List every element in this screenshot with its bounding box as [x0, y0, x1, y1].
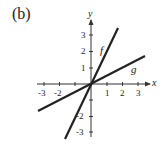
graph — [0, 0, 168, 146]
series-f-label: f — [100, 44, 103, 56]
ytick-label: 1 — [81, 63, 86, 73]
xtick-label: -2 — [54, 88, 62, 98]
xtick-label: 3 — [136, 88, 141, 98]
ytick-label: 3 — [81, 30, 86, 40]
xtick-label: 2 — [120, 88, 125, 98]
ytick-label: -3 — [76, 127, 84, 137]
x-axis-label: x — [152, 77, 156, 88]
series-g-label: g — [131, 63, 137, 75]
y-axis-arrow-icon — [89, 19, 94, 25]
ytick-label: 2 — [81, 46, 86, 56]
ytick-label: -2 — [76, 111, 84, 121]
x-axis-arrow-icon — [145, 82, 151, 87]
xtick-label: 1 — [105, 88, 110, 98]
xtick-label: -3 — [38, 88, 46, 98]
y-axis-label: y — [88, 8, 92, 19]
